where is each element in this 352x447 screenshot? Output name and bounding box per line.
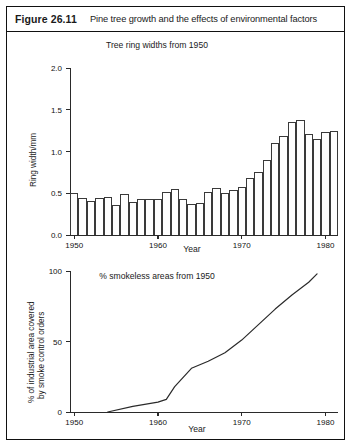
tree-ring-bar	[78, 198, 86, 235]
tree-ring-bar	[330, 131, 338, 235]
tree-ring-bar	[204, 192, 212, 235]
tree-ring-bar	[288, 122, 296, 235]
tree-ring-x-tick	[325, 235, 326, 239]
figure-number: Figure 26.11	[15, 13, 77, 25]
tree-ring-x-axis-label: Year	[183, 244, 200, 254]
tree-ring-bar	[70, 193, 78, 235]
smokeless-y-tick-label: 100	[22, 267, 62, 276]
tree-ring-y-tick-label: 0.5	[22, 189, 62, 198]
figure-caption-bar: Figure 26.11 Pine tree growth and the ef…	[7, 7, 344, 32]
tree-ring-bar	[162, 192, 170, 235]
tree-ring-bar	[171, 189, 179, 235]
tree-ring-bar	[246, 178, 254, 235]
smokeless-x-axis-label: Year	[188, 424, 205, 434]
tree-ring-chart-title: Tree ring widths from 1950	[106, 40, 208, 50]
tree-ring-bar	[145, 199, 153, 235]
tree-ring-y-tick-label: 1.5	[22, 105, 62, 114]
smokeless-x-tick-label: 1980	[317, 418, 335, 427]
tree-ring-bar	[263, 160, 271, 235]
tree-ring-bar	[271, 143, 279, 235]
tree-ring-bar	[120, 194, 128, 235]
tree-ring-bar	[129, 202, 137, 235]
tree-ring-bar	[229, 190, 237, 235]
tree-ring-bar	[254, 172, 262, 235]
tree-ring-bar	[296, 120, 304, 235]
tree-ring-x-tick	[157, 235, 158, 239]
smokeless-x-tick-label: 1950	[65, 418, 83, 427]
smokeless-plot-area: 100500 1950196019701980	[70, 271, 338, 413]
tree-ring-x-tick-label: 1950	[65, 241, 83, 250]
tree-ring-bar	[279, 136, 287, 235]
tree-ring-bar	[212, 188, 220, 235]
tree-ring-x-tick	[241, 235, 242, 239]
smokeless-y-axis-label-line2: by smoke control orders	[37, 312, 46, 399]
smokeless-line-series	[70, 271, 338, 413]
tree-ring-bar	[221, 193, 229, 235]
tree-ring-y-tick	[66, 109, 70, 110]
tree-ring-bar	[321, 132, 329, 235]
tree-ring-y-tick	[66, 151, 70, 152]
tree-ring-y-axis-label: Ring width/mm	[29, 133, 38, 187]
tree-ring-bar	[313, 139, 321, 235]
figure-caption-text: Pine tree growth and the effects of envi…	[90, 14, 317, 24]
tree-ring-bar	[196, 203, 204, 235]
smokeless-areas-chart: % smokeless areas from 1950 % of industr…	[7, 257, 346, 441]
tree-ring-plot-area: 2.01.51.00.50.0 1950196019701980	[70, 68, 338, 236]
tree-ring-bar	[305, 134, 313, 235]
smokeless-x-tick-label: 1970	[233, 418, 251, 427]
smokeless-y-axis-label-line1: % of industrial area covered	[27, 302, 36, 404]
tree-ring-x-tick-label: 1970	[233, 241, 251, 250]
tree-ring-bar	[179, 199, 187, 235]
tree-ring-y-tick-label: 0.0	[22, 231, 62, 240]
tree-ring-y-tick-label: 1.0	[22, 147, 62, 156]
tree-ring-x-axis	[70, 235, 338, 236]
figure-frame: Figure 26.11 Pine tree growth and the ef…	[6, 6, 345, 440]
tree-ring-bar	[95, 198, 103, 235]
tree-ring-bar	[104, 197, 112, 235]
tree-ring-y-tick	[66, 68, 70, 69]
tree-ring-x-tick-label: 1960	[149, 241, 167, 250]
tree-ring-widths-chart: Tree ring widths from 1950 Ring width/mm…	[7, 32, 346, 257]
tree-ring-x-tick	[74, 235, 75, 239]
tree-ring-y-tick-label: 2.0	[22, 64, 62, 73]
tree-ring-bar	[112, 205, 120, 235]
smokeless-y-tick-label: 50	[22, 337, 62, 346]
tree-ring-bar	[187, 204, 195, 235]
tree-ring-bar	[87, 201, 95, 235]
smokeless-y-tick-label: 0	[22, 408, 62, 417]
tree-ring-bar	[154, 199, 162, 235]
tree-ring-bar	[137, 199, 145, 235]
tree-ring-bar	[238, 187, 246, 235]
smokeless-x-tick-label: 1960	[149, 418, 167, 427]
tree-ring-x-tick-label: 1980	[317, 241, 335, 250]
